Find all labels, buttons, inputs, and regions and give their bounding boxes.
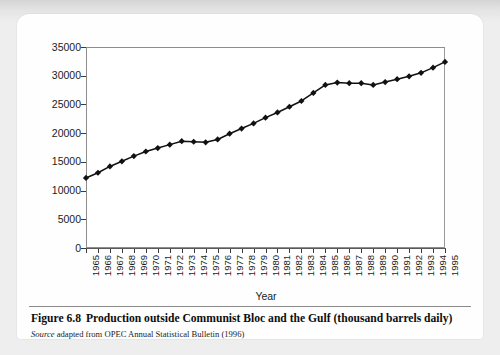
x-axis-tick-mark bbox=[146, 249, 147, 253]
x-axis-tick-mark bbox=[122, 249, 123, 253]
x-axis-tick-mark bbox=[218, 249, 219, 253]
data-point-marker bbox=[107, 163, 113, 169]
x-axis-tick-mark bbox=[361, 249, 362, 253]
data-point-marker bbox=[131, 153, 137, 159]
chart-figure: 05000100001500020000250003000035000 1965… bbox=[17, 14, 483, 292]
figure-number: Figure 6.8 bbox=[31, 312, 81, 325]
x-axis-tick-label: 1977 bbox=[234, 255, 245, 276]
x-axis-tick-mark bbox=[230, 249, 231, 253]
x-axis-tick-label: 1994 bbox=[437, 255, 448, 276]
data-point-marker bbox=[95, 170, 101, 176]
x-axis-tick-mark bbox=[110, 249, 111, 253]
x-axis-tick-mark bbox=[445, 249, 446, 253]
x-axis-tick-mark bbox=[337, 249, 338, 253]
y-axis-tick-label: 20000 bbox=[21, 128, 81, 139]
data-point-marker bbox=[286, 104, 292, 110]
x-axis-tick-label: 1990 bbox=[389, 255, 400, 276]
x-axis-tick-label: 1989 bbox=[377, 255, 388, 276]
x-axis-tick-mark bbox=[194, 249, 195, 253]
data-point-marker bbox=[179, 138, 185, 144]
data-point-marker bbox=[382, 79, 388, 85]
x-axis-tick-mark bbox=[373, 249, 374, 253]
x-axis-tick-mark bbox=[349, 249, 350, 253]
x-axis-tick-label: 1970 bbox=[150, 255, 161, 276]
y-axis-tick-label: 0 bbox=[21, 243, 81, 254]
x-axis-tick-label: 1988 bbox=[365, 255, 376, 276]
y-axis-tick-label: 5000 bbox=[21, 214, 81, 225]
figure-caption: Figure 6.8Production outside Communist B… bbox=[31, 312, 475, 326]
data-point-marker bbox=[334, 80, 340, 86]
y-axis-tick-label: 10000 bbox=[21, 185, 81, 196]
x-axis-tick-label: 1987 bbox=[353, 255, 364, 276]
x-axis-tick-label: 1993 bbox=[425, 255, 436, 276]
source-text: adapted from OPEC Annual Statistical Bul… bbox=[57, 329, 245, 339]
y-axis-tick-label: 30000 bbox=[21, 70, 81, 81]
x-axis-tick-mark bbox=[86, 249, 87, 253]
data-point-marker bbox=[418, 70, 424, 76]
y-axis-labels: 05000100001500020000250003000035000 bbox=[17, 14, 81, 292]
x-axis-title: Year bbox=[86, 290, 446, 302]
x-axis-tick-mark bbox=[313, 249, 314, 253]
x-axis-tick-mark bbox=[277, 249, 278, 253]
x-axis-tick-mark bbox=[254, 249, 255, 253]
x-axis-tick-mark bbox=[433, 249, 434, 253]
data-point-marker bbox=[227, 131, 233, 137]
data-point-marker bbox=[191, 139, 197, 145]
data-point-marker bbox=[238, 125, 244, 131]
x-axis-tick-label: 1982 bbox=[293, 255, 304, 276]
figure-source: Source adapted from OPEC Annual Statisti… bbox=[31, 329, 475, 339]
data-point-marker bbox=[155, 145, 161, 151]
x-axis-tick-label: 1968 bbox=[126, 255, 137, 276]
x-axis-tick-label: 1980 bbox=[270, 255, 281, 276]
data-point-marker bbox=[83, 175, 89, 181]
data-point-marker bbox=[442, 59, 448, 65]
x-axis-tick-label: 1985 bbox=[329, 255, 340, 276]
x-axis-tick-mark bbox=[170, 249, 171, 253]
x-axis-tick-label: 1981 bbox=[281, 255, 292, 276]
x-axis-tick-mark bbox=[266, 249, 267, 253]
data-point-marker bbox=[119, 158, 125, 164]
x-axis-tick-label: 1992 bbox=[413, 255, 424, 276]
x-axis-tick-mark bbox=[325, 249, 326, 253]
x-axis-tick-mark bbox=[242, 249, 243, 253]
source-word: Source bbox=[31, 329, 55, 339]
y-axis-tick-label: 15000 bbox=[21, 156, 81, 167]
data-point-marker bbox=[203, 139, 209, 145]
x-axis-tick-mark bbox=[98, 249, 99, 253]
caption-block: Figure 6.8Production outside Communist B… bbox=[31, 312, 475, 340]
data-point-marker bbox=[394, 76, 400, 82]
x-axis-tick-label: 1974 bbox=[198, 255, 209, 276]
page-background: 05000100001500020000250003000035000 1965… bbox=[0, 0, 500, 355]
data-point-marker bbox=[346, 80, 352, 86]
y-axis-tick-label: 25000 bbox=[21, 99, 81, 110]
x-axis-tick-label: 1967 bbox=[114, 255, 125, 276]
x-axis-tick-label: 1969 bbox=[138, 255, 149, 276]
x-axis-tick-mark bbox=[134, 249, 135, 253]
x-axis-tick-label: 1971 bbox=[162, 255, 173, 276]
data-point-marker bbox=[406, 73, 412, 79]
data-point-marker bbox=[143, 148, 149, 154]
data-point-marker bbox=[430, 65, 436, 71]
figure-caption-text: Production outside Communist Bloc and th… bbox=[86, 312, 452, 325]
x-axis-tick-mark bbox=[421, 249, 422, 253]
x-axis-tick-label: 1995 bbox=[449, 255, 460, 276]
data-point-marker bbox=[215, 136, 221, 142]
data-point-marker bbox=[167, 142, 173, 148]
x-axis-tick-label: 1986 bbox=[341, 255, 352, 276]
x-axis-tick-mark bbox=[289, 249, 290, 253]
x-axis-tick-label: 1972 bbox=[174, 255, 185, 276]
data-point-marker bbox=[250, 120, 256, 126]
data-series bbox=[86, 47, 445, 248]
y-axis-tick-label: 35000 bbox=[21, 42, 81, 53]
data-point-marker bbox=[358, 80, 364, 86]
x-axis-tick-label: 1984 bbox=[317, 255, 328, 276]
x-axis-tick-mark bbox=[301, 249, 302, 253]
x-axis-tick-label: 1976 bbox=[222, 255, 233, 276]
data-point-marker bbox=[262, 115, 268, 121]
x-axis-tick-label: 1975 bbox=[210, 255, 221, 276]
x-axis-tick-mark bbox=[385, 249, 386, 253]
data-point-marker bbox=[274, 109, 280, 115]
x-axis-tick-label: 1978 bbox=[246, 255, 257, 276]
x-axis-tick-label: 1979 bbox=[258, 255, 269, 276]
x-axis-tick-label: 1973 bbox=[186, 255, 197, 276]
